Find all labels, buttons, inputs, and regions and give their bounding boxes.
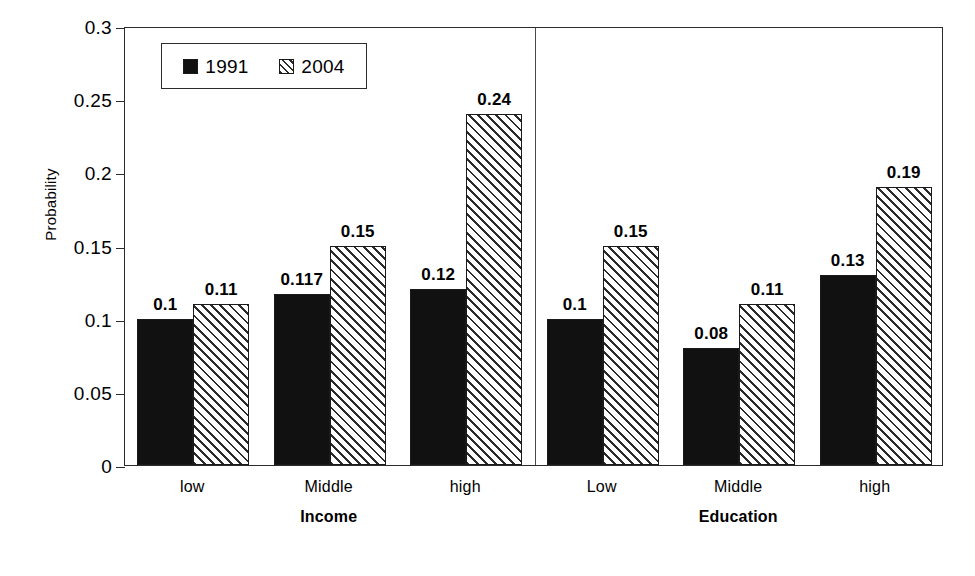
y-tick-label: 0.05	[52, 383, 112, 402]
bar-group: 0.120.24	[410, 28, 522, 465]
bar-value-label: 0.1	[563, 296, 587, 313]
y-tick-mark	[116, 174, 125, 175]
bar-1991-Middle[interactable]	[274, 294, 330, 465]
bar-value-label: 0.15	[341, 223, 375, 240]
bar-slot: 0.12	[410, 28, 466, 465]
y-tick-mark	[116, 394, 125, 395]
bar-group: 0.10.11	[137, 28, 249, 465]
bar-2004-Middle[interactable]	[330, 246, 386, 466]
y-tick-label: 0.1	[52, 310, 112, 329]
y-tick-mark	[116, 28, 125, 29]
chart-figure: Probability 00.050.10.150.20.250.3 1991 …	[0, 0, 975, 576]
bar-slot: 0.24	[466, 28, 522, 465]
category-label: high	[450, 478, 481, 496]
y-tick-mark	[116, 467, 125, 468]
bar-value-label: 0.11	[205, 281, 238, 298]
category-label: Low	[587, 478, 617, 496]
category-label: low	[180, 478, 205, 496]
bar-value-label: 0.12	[421, 266, 455, 283]
category-label: high	[859, 478, 890, 496]
plot-area: 1991 2004 0.10.110.1170.150.120.240.10.1…	[124, 27, 943, 466]
panel-title-income: Income	[300, 508, 357, 526]
bar-slot: 0.1	[137, 28, 193, 465]
bar-value-label: 0.117	[280, 271, 323, 288]
bar-1991-low[interactable]	[137, 319, 193, 465]
bar-2004-Low[interactable]	[603, 246, 659, 466]
bar-slot: 0.117	[274, 28, 330, 465]
bar-slot: 0.1	[547, 28, 603, 465]
panel-divider	[535, 28, 536, 465]
bar-value-label: 0.1	[153, 296, 177, 313]
y-tick-label: 0.25	[52, 91, 112, 110]
bar-1991-high[interactable]	[820, 275, 876, 465]
y-tick-mark	[116, 321, 125, 322]
category-label: Middle	[714, 478, 762, 496]
bar-value-label: 0.11	[751, 281, 784, 298]
bar-2004-Middle[interactable]	[739, 304, 795, 465]
bar-2004-high[interactable]	[466, 114, 522, 465]
bar-2004-low[interactable]	[193, 304, 249, 465]
bar-1991-Low[interactable]	[547, 319, 603, 465]
bar-2004-high[interactable]	[876, 187, 932, 465]
y-tick-label: 0.2	[52, 164, 112, 183]
bar-slot: 0.11	[739, 28, 795, 465]
bar-slot: 0.15	[603, 28, 659, 465]
bar-group: 0.10.15	[547, 28, 659, 465]
bar-group: 0.1170.15	[274, 28, 386, 465]
bar-value-label: 0.08	[694, 325, 728, 342]
bar-1991-high[interactable]	[410, 289, 466, 465]
bar-slot: 0.13	[820, 28, 876, 465]
y-axis-tick-labels: 00.050.10.150.20.250.3	[48, 0, 112, 576]
bar-1991-Middle[interactable]	[683, 348, 739, 465]
bar-group: 0.130.19	[820, 28, 932, 465]
y-tick-label: 0	[52, 457, 112, 476]
category-label: Middle	[305, 478, 353, 496]
y-tick-mark	[116, 248, 125, 249]
y-tick-label: 0.3	[52, 18, 112, 37]
bar-slot: 0.11	[193, 28, 249, 465]
bar-value-label: 0.15	[614, 223, 648, 240]
bar-value-label: 0.13	[831, 252, 865, 269]
bar-slot: 0.08	[683, 28, 739, 465]
bar-value-label: 0.19	[887, 164, 921, 181]
panel-title-education: Education	[699, 508, 778, 526]
bar-group: 0.080.11	[683, 28, 795, 465]
y-tick-label: 0.15	[52, 237, 112, 256]
bar-slot: 0.15	[330, 28, 386, 465]
bar-slot: 0.19	[876, 28, 932, 465]
bar-value-label: 0.24	[477, 91, 511, 108]
y-tick-mark	[116, 101, 125, 102]
